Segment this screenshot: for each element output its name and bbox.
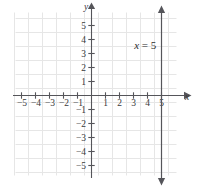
- y-tick-label: 5: [81, 21, 86, 31]
- graph-figure: −5−4−3−2−112345 54321−1−2−3−4−5 x y x = …: [0, 0, 197, 187]
- y-tick-label: 1: [81, 77, 86, 87]
- equation-label: x = 5: [133, 39, 157, 51]
- x-tick-label: 2: [117, 98, 122, 108]
- axes: [13, 3, 192, 179]
- x-tick-label: −3: [45, 98, 55, 108]
- y-tick-label: −1: [76, 105, 86, 115]
- y-tick-label: 3: [81, 49, 86, 59]
- y-tick-label: 4: [81, 35, 86, 45]
- y-tick-label: −2: [76, 119, 86, 129]
- equation-value: = 5: [139, 39, 157, 51]
- coordinate-plane-svg: −5−4−3−2−112345 54321−1−2−3−4−5 x y x = …: [0, 0, 197, 187]
- x-tick-label: −4: [31, 98, 41, 108]
- y-tick-label: 2: [81, 63, 86, 73]
- x-tick-label: −5: [17, 98, 27, 108]
- line-arrow-up-icon: [158, 5, 165, 12]
- x-tick-label: 3: [131, 98, 136, 108]
- x-tick-label: −2: [59, 98, 69, 108]
- x-axis-label: x: [184, 92, 190, 102]
- y-tick-label: −3: [76, 133, 86, 143]
- y-tick-label: −5: [76, 161, 86, 171]
- y-tick-label: −4: [76, 147, 86, 157]
- y-axis-arrow-icon: [88, 3, 95, 10]
- line-arrow-down-icon: [158, 178, 165, 186]
- grid-lines: [15, 13, 177, 176]
- x-tick-label: 1: [103, 98, 108, 108]
- y-axis-label: y: [83, 2, 89, 12]
- x-tick-label: 4: [145, 98, 150, 108]
